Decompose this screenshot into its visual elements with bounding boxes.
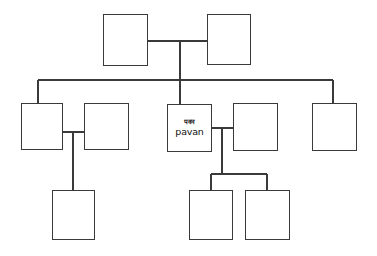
generation2-box-4[interactable] [233, 103, 278, 151]
family-tree-canvas: पवनpavan [0, 0, 377, 256]
generation3-box-3[interactable] [245, 190, 290, 240]
generation3-box-2[interactable] [189, 190, 233, 240]
generation2-box-pavan-label-latin: pavan [175, 127, 203, 137]
generation2-box-2[interactable] [84, 103, 129, 150]
generation1-box-right[interactable] [207, 14, 251, 65]
generation2-box-1[interactable] [21, 103, 63, 150]
generation3-box-1[interactable] [52, 190, 95, 240]
generation2-box-pavan[interactable]: पवनpavan [167, 104, 212, 152]
generation1-box-left[interactable] [103, 14, 148, 66]
generation2-box-5[interactable] [312, 103, 357, 151]
